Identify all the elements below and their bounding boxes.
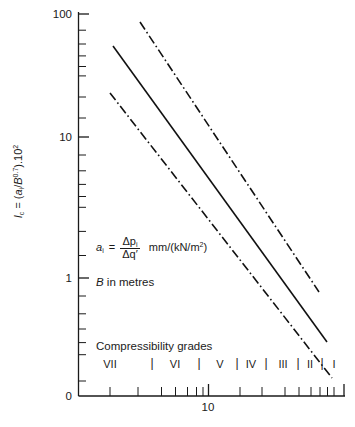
grade-label-vi: VI xyxy=(170,358,180,370)
formula-units-close: ) xyxy=(203,241,207,253)
grade-separator-5: | xyxy=(296,356,299,370)
grade-label-i: I xyxy=(332,358,335,370)
y-minor-ticks-lower xyxy=(79,296,87,381)
y-minor-ticks-upper xyxy=(79,30,87,118)
formula-a-sub: i xyxy=(102,247,104,254)
curve-mean xyxy=(113,46,327,342)
b-symbol: B xyxy=(96,276,104,288)
grade-label-vii: VII xyxy=(103,358,116,370)
compressibility-grades-title: Compressibility grades xyxy=(96,340,212,352)
y-tick-label-0: 0 xyxy=(30,390,72,402)
grade-separator-2: | xyxy=(197,356,200,370)
formula-units: mm/(kN/m2) xyxy=(149,241,207,253)
formula-annotation: ai = Δpi Δq′ mm/(kN/m2) xyxy=(96,236,207,261)
grade-label-iv: IV xyxy=(246,358,256,370)
y-axis-title: Ic = (ai/B0.7).102 xyxy=(12,112,25,252)
formula-numerator: Δpi xyxy=(120,236,140,249)
grade-separator-1: | xyxy=(150,356,153,370)
formula-units-text: mm/(kN/m xyxy=(149,241,200,253)
formula-equals: = xyxy=(109,241,115,253)
y-tick-label-10: 10 xyxy=(30,131,72,143)
y-major-ticks xyxy=(79,14,90,278)
formula-numerator-sub: i xyxy=(136,241,138,248)
formula-fraction: Δpi Δq′ xyxy=(120,236,140,261)
b-note-text: in metres xyxy=(104,276,155,288)
data-lines xyxy=(110,22,332,378)
grade-label-iii: III xyxy=(278,358,287,370)
grade-label-ii: II xyxy=(307,358,313,370)
x-major-ticks xyxy=(209,384,345,396)
y-minor-ticks-mid xyxy=(79,155,87,256)
grade-separator-3: | xyxy=(235,356,238,370)
grade-separator-4: | xyxy=(264,356,267,370)
x-minor-ticks xyxy=(110,387,334,396)
formula-denominator: Δq′ xyxy=(120,249,140,261)
b-in-metres-note: B in metres xyxy=(96,276,154,288)
x-tick-label-10: 10 xyxy=(202,401,215,413)
formula-numerator-text: Δp xyxy=(123,235,136,247)
y-tick-label-100: 100 xyxy=(30,8,72,20)
y-tick-label-1: 1 xyxy=(30,272,72,284)
grade-label-v: V xyxy=(216,358,223,370)
grade-separator-6: | xyxy=(320,356,323,370)
